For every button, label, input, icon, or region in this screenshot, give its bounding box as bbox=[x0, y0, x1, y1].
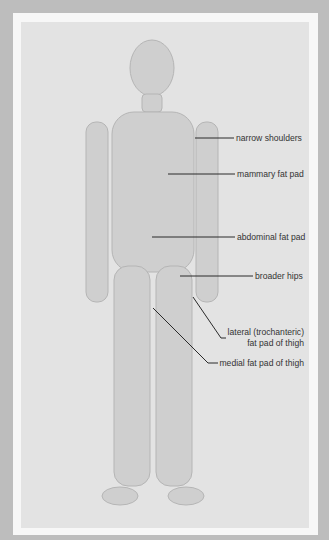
label-lateral-fat-pad: lateral (trochanteric) fat pad of thigh bbox=[228, 327, 304, 348]
label-medial-fat-pad: medial fat pad of thigh bbox=[219, 358, 304, 369]
label-lateral-line2: fat pad of thigh bbox=[228, 338, 304, 349]
figure-overlay bbox=[0, 0, 329, 540]
label-abdominal-fat-pad: abdominal fat pad bbox=[237, 232, 305, 243]
leader-line-lateral bbox=[193, 297, 226, 338]
label-mammary-fat-pad: mammary fat pad bbox=[237, 169, 304, 180]
label-broader-hips: broader hips bbox=[255, 271, 303, 282]
figure-placeholder bbox=[86, 40, 218, 505]
label-lateral-line1: lateral (trochanteric) bbox=[228, 327, 304, 338]
label-narrow-shoulders: narrow shoulders bbox=[236, 133, 302, 144]
